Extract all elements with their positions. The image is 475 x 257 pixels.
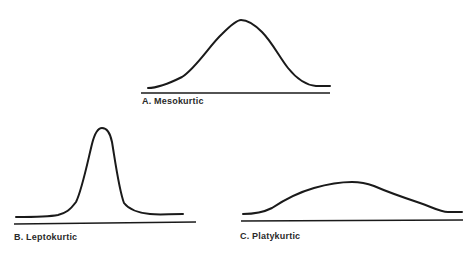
mesokurtic-label: A. Mesokurtic	[142, 96, 204, 106]
mesokurtic-curve	[148, 20, 330, 88]
panel-platykurtic	[241, 182, 463, 221]
panel-mesokurtic	[141, 20, 330, 93]
platykurtic-baseline	[241, 220, 463, 221]
leptokurtic-baseline	[14, 222, 196, 224]
kurtosis-diagram	[0, 0, 475, 257]
panel-leptokurtic	[14, 128, 196, 224]
leptokurtic-curve	[16, 128, 183, 217]
platykurtic-curve	[243, 182, 462, 214]
leptokurtic-label: B. Leptokurtic	[14, 232, 77, 242]
platykurtic-label: C. Platykurtic	[240, 231, 300, 241]
